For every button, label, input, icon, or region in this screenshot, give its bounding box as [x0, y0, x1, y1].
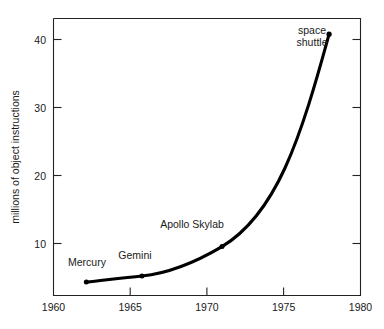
data-point-apollo-skylab	[220, 244, 225, 249]
x-axis-ticks	[130, 288, 283, 296]
x-tick-label-1960: 1960	[42, 301, 66, 313]
y-tick-label-10: 10	[34, 238, 46, 250]
y-axis-ticks	[54, 40, 62, 244]
y-axis-ticks-right	[353, 40, 361, 244]
annotation-gemini: Gemini	[118, 249, 151, 261]
data-point-mercury	[84, 280, 89, 285]
y-tick-label-30: 30	[34, 102, 46, 114]
series-line-object-instructions	[86, 34, 329, 282]
x-tick-label-1970: 1970	[195, 301, 219, 313]
series-markers	[84, 32, 332, 285]
y-axis-title: millions of object instructions	[9, 90, 21, 224]
annotation-space: space	[298, 24, 326, 36]
y-tick-label-20: 20	[34, 170, 46, 182]
chart-figure: 40 30 20 10 1960 1965 1970 1975 1980 mil…	[0, 0, 384, 329]
annotation-apollo-skylab: Apollo Skylab	[160, 218, 224, 230]
y-tick-label-40: 40	[34, 34, 46, 46]
annotation-shuttle: shuttle	[297, 36, 328, 48]
line-chart-svg: 40 30 20 10 1960 1965 1970 1975 1980 mil…	[0, 0, 384, 329]
annotation-mercury: Mercury	[68, 256, 107, 268]
x-tick-label-1965: 1965	[119, 301, 143, 313]
data-point-gemini	[139, 274, 144, 279]
x-tick-label-1980: 1980	[349, 301, 373, 313]
x-tick-label-1975: 1975	[272, 301, 296, 313]
